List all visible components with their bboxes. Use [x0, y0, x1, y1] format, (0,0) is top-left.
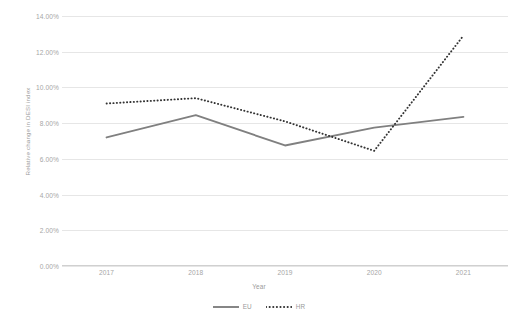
y-axis-tick-label: 0.00% — [13, 263, 59, 270]
x-axis-tick-labels: 20172018201920202021 — [62, 269, 508, 283]
legend-swatch-hr-dotted — [266, 304, 292, 310]
series-lines — [62, 16, 508, 266]
y-axis-tick-label: 10.00% — [13, 84, 59, 91]
legend-swatch-eu-solid — [213, 304, 239, 310]
chart-legend: EU HR — [0, 303, 518, 310]
x-axis-tick-label: 2019 — [255, 269, 315, 276]
legend-label-hr: HR — [296, 303, 305, 310]
y-axis-tick-label: 6.00% — [13, 155, 59, 162]
x-axis-tick-label: 2018 — [166, 269, 226, 276]
y-axis-tick-label: 2.00% — [13, 227, 59, 234]
y-axis-tick-labels: 0.00%2.00%4.00%6.00%8.00%10.00%12.00%14.… — [0, 0, 59, 321]
y-axis-tick-label: 14.00% — [13, 13, 59, 20]
series-line-hr — [107, 36, 464, 151]
y-axis-tick-label: 12.00% — [13, 48, 59, 55]
x-axis-tick-label: 2021 — [433, 269, 493, 276]
series-line-eu — [107, 115, 464, 145]
x-axis-tick-label: 2020 — [344, 269, 404, 276]
legend-label-eu: EU — [243, 303, 252, 310]
y-axis-tick-label: 4.00% — [13, 191, 59, 198]
plot-area — [62, 16, 508, 266]
legend-item-hr[interactable]: HR — [266, 303, 305, 310]
x-axis-title: Year — [0, 283, 518, 290]
desi-index-line-chart: Relative change in DESI index 0.00%2.00%… — [0, 0, 518, 321]
gridline — [62, 266, 508, 267]
x-axis-tick-label: 2017 — [77, 269, 137, 276]
legend-item-eu[interactable]: EU — [213, 303, 252, 310]
y-axis-tick-label: 8.00% — [13, 120, 59, 127]
